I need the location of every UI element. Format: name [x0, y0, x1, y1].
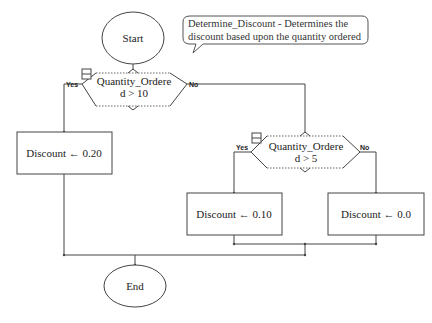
start-label: Start: [123, 32, 144, 44]
connector-merge-inner: [234, 235, 376, 244]
decision2-line2: d > 5: [295, 152, 318, 164]
process2-label: Discount ← 0.10: [196, 208, 272, 220]
comment-callout[interactable]: Determine_Discount - Determines the disc…: [183, 16, 368, 53]
loop-marker-icon: [82, 69, 91, 79]
decision-quantity-gt-5[interactable]: Quantity_Ordere d > 5: [251, 132, 360, 172]
end-terminal[interactable]: End: [104, 265, 166, 307]
decision1-line2: d > 10: [120, 87, 149, 99]
comment-line1: Determine_Discount - Determines the: [188, 18, 348, 29]
loop-marker-icon: [252, 133, 261, 143]
decision-quantity-gt-10[interactable]: Quantity_Ordere d > 10: [82, 69, 187, 110]
decision1-line1: Quantity_Ordere: [97, 75, 172, 87]
decision1-yes-label: Yes: [66, 81, 78, 88]
end-label: End: [126, 280, 144, 292]
flowchart-canvas: Start Determine_Discount - Determines th…: [0, 0, 432, 323]
decision2-yes-label: Yes: [236, 144, 248, 151]
decision2-line1: Quantity_Ordere: [269, 140, 344, 152]
comment-line2: discount based upon the quantity ordered: [188, 31, 362, 42]
decision1-no-label: No: [189, 81, 198, 88]
start-terminal[interactable]: Start: [102, 12, 164, 64]
process1-label: Discount ← 0.20: [26, 147, 102, 159]
process3-label: Discount ← 0.0: [341, 208, 411, 220]
connector-decision2-yes: [234, 152, 251, 193]
connector-decision2-no: [360, 152, 376, 193]
connector-decision1-yes: [64, 84, 82, 132]
process-discount-020[interactable]: Discount ← 0.20: [17, 132, 112, 174]
process-discount-010[interactable]: Discount ← 0.10: [187, 193, 282, 235]
process-discount-00[interactable]: Discount ← 0.0: [328, 193, 424, 235]
decision2-no-label: No: [360, 144, 369, 151]
connector-decision1-no: [187, 84, 305, 134]
